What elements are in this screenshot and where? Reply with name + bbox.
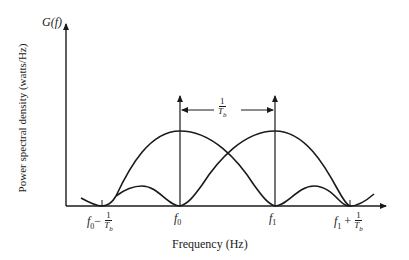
main-lobe-f1	[180, 131, 350, 206]
tick-label-f1: f1	[269, 211, 276, 227]
side-lobe-right-inner	[275, 186, 350, 206]
tick-label-f0-minus: f0− 1Tb	[87, 211, 113, 234]
tick-label-f1-plus: f1 + 1Tb	[334, 211, 363, 234]
spacing-label: 1Tb	[218, 97, 227, 120]
x-axis-label: Frequency (Hz)	[172, 237, 248, 252]
side-lobe-left-outer	[81, 196, 116, 206]
side-lobe-right-outer	[350, 194, 374, 206]
y-axis-label: Power spectral density (watts/Hz)	[16, 44, 28, 193]
tick-label-f0: f0	[174, 211, 181, 227]
side-lobe-left-inner	[116, 186, 180, 206]
y-axis-symbol: G(f)	[42, 15, 62, 30]
